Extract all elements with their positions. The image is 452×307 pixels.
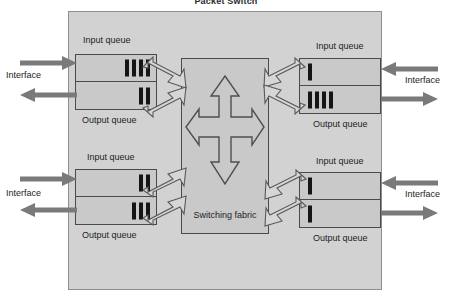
connector-arrow-in-top-left [140,57,188,89]
input-queue-label-bottom-left: Input queue [87,152,135,162]
packet [308,91,312,108]
packet [132,60,136,77]
input-queue-label-bottom-right: Input queue [316,156,364,166]
output-queue-label-bottom-right: Output queue [313,233,368,243]
switching-fabric: Switching fabric [181,58,269,234]
input-queue-bottom-right [300,173,380,200]
output-queue-label-top-right: Output queue [313,119,368,129]
arrow-left-icon [381,176,439,190]
switching-fabric-label: Switching fabric [182,210,268,220]
four-way-arrow-icon [182,72,268,190]
arrow-left-icon [20,88,78,102]
interface-module-bottom-right [299,172,381,228]
input-queue-label-top-right: Input queue [316,41,364,51]
output-queue-label-top-left: Output queue [82,115,137,125]
packet [315,91,319,108]
output-queue-top-right [300,86,380,113]
diagram-canvas: Packet Switch Switching fabric Input que… [0,0,452,307]
packet [125,60,129,77]
input-queue-label-top-left: Input queue [83,35,131,45]
connector-arrow-out-top-left [140,86,188,118]
arrow-left-icon [381,62,439,76]
diagram-title: Packet Switch [0,0,452,6]
output-queue-bottom-right [300,200,380,227]
packet [322,91,326,108]
interface-label-bottom-right: Interface [405,189,440,199]
arrow-right-icon [20,56,78,70]
packet [132,202,136,219]
interface-label-bottom-left: Interface [6,188,41,198]
interface-label-top-left: Interface [6,70,41,80]
input-queue-top-right [300,59,380,86]
interface-module-top-right [299,58,381,114]
arrow-right-icon [381,206,439,220]
connector-arrow-in-bottom-right [265,170,309,200]
arrow-left-icon [20,203,78,217]
output-queue-label-bottom-left: Output queue [82,230,137,240]
packet-group [308,91,333,108]
packet-group [308,64,312,81]
connector-arrow-in-bottom-left [140,168,188,198]
packet [329,91,333,108]
connector-arrow-out-top-right [264,84,308,114]
connector-arrow-out-bottom-left [140,196,188,226]
arrow-right-icon [20,172,78,186]
interface-label-top-right: Interface [405,75,440,85]
arrow-right-icon [381,92,439,106]
connector-arrow-out-bottom-right [265,197,309,227]
packet [308,64,312,81]
